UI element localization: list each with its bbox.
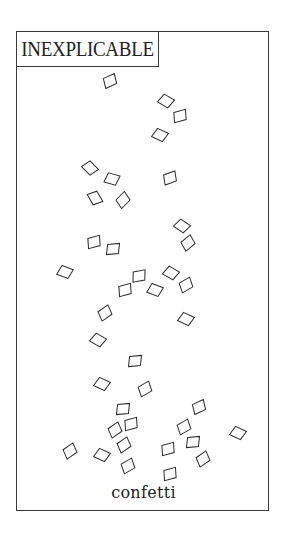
confetti-piece bbox=[128, 355, 143, 366]
confetti-piece bbox=[175, 419, 192, 435]
confetti-piece bbox=[152, 128, 169, 143]
confetti-piece bbox=[160, 442, 176, 455]
confetti-piece bbox=[57, 265, 74, 279]
confetti-piece bbox=[162, 265, 179, 281]
confetti-piece bbox=[119, 458, 136, 474]
title-box: INEXPLICABLE bbox=[16, 31, 159, 67]
confetti-piece bbox=[106, 422, 123, 438]
confetti-piece bbox=[230, 426, 247, 441]
confetti-piece bbox=[106, 243, 121, 254]
confetti-piece bbox=[162, 171, 179, 185]
confetti-pieces bbox=[0, 0, 287, 534]
confetti-piece bbox=[157, 93, 174, 109]
panel-title: INEXPLICABLE bbox=[21, 37, 154, 62]
confetti-piece bbox=[136, 381, 153, 397]
confetti-piece bbox=[115, 192, 132, 209]
confetti-piece bbox=[94, 448, 111, 463]
confetti-piece bbox=[179, 235, 196, 252]
confetti-piece bbox=[194, 451, 211, 467]
confetti-piece bbox=[147, 283, 164, 297]
confetti-piece bbox=[87, 189, 103, 206]
confetti-piece bbox=[186, 436, 201, 447]
panel-caption: confetti bbox=[0, 483, 287, 502]
confetti-piece bbox=[123, 417, 139, 430]
confetti-piece bbox=[116, 403, 131, 414]
confetti-piece bbox=[94, 377, 111, 392]
confetti-piece bbox=[61, 443, 78, 459]
confetti-piece bbox=[86, 235, 102, 248]
confetti-piece bbox=[131, 270, 147, 282]
confetti-piece bbox=[172, 109, 188, 122]
confetti-piece bbox=[89, 332, 106, 348]
confetti-piece bbox=[117, 283, 133, 296]
confetti-piece bbox=[102, 74, 119, 89]
confetti-piece bbox=[82, 160, 99, 177]
confetti-piece bbox=[104, 172, 120, 185]
confetti-piece bbox=[115, 437, 132, 453]
confetti-piece bbox=[162, 467, 178, 480]
confetti-piece bbox=[96, 305, 113, 321]
confetti-piece bbox=[178, 312, 195, 327]
confetti-piece bbox=[191, 400, 208, 415]
confetti-piece bbox=[177, 277, 194, 293]
confetti-piece bbox=[173, 218, 190, 234]
